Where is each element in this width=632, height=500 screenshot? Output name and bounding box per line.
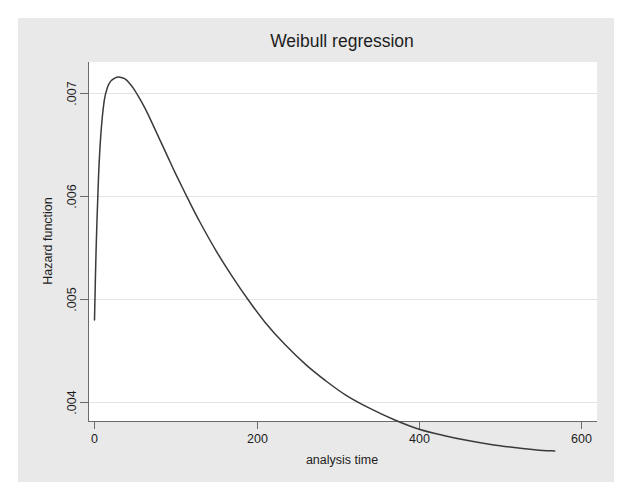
x-tick-label-400: 400 bbox=[409, 432, 430, 446]
x-tick-label-600: 600 bbox=[571, 432, 592, 446]
y-tick-label-007: .007 bbox=[65, 81, 79, 105]
x-axis-tick-marks bbox=[95, 421, 582, 429]
plot-area-background bbox=[88, 62, 597, 421]
y-axis-label: Hazard function bbox=[41, 197, 55, 285]
weibull-hazard-chart: .007 .006 .005 .004 0 200 400 600 Hazard… bbox=[0, 0, 632, 500]
chart-title: Weibull regression bbox=[270, 31, 414, 51]
chart-canvas: .007 .006 .005 .004 0 200 400 600 Hazard… bbox=[0, 0, 632, 500]
x-tick-label-0: 0 bbox=[91, 432, 98, 446]
y-tick-label-006: .006 bbox=[65, 184, 79, 208]
y-axis-tick-marks bbox=[80, 94, 88, 403]
x-axis-label: analysis time bbox=[306, 453, 378, 467]
x-tick-label-200: 200 bbox=[247, 432, 268, 446]
y-tick-label-005: .005 bbox=[65, 287, 79, 311]
y-tick-label-004: .004 bbox=[65, 390, 79, 414]
